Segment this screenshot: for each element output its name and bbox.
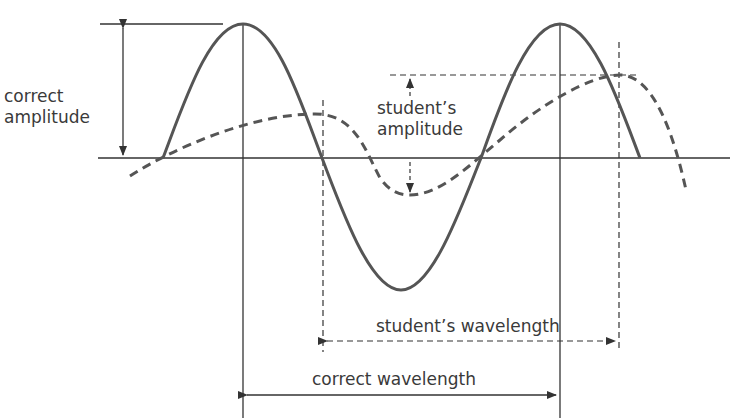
student-wavelength-label: student’s wavelength [376, 316, 560, 337]
correct-amplitude-label-line2: amplitude [4, 107, 90, 128]
student-amplitude-label-line2: amplitude [376, 119, 464, 140]
student-amplitude-label-line1: student’s [376, 98, 457, 119]
correct-wave [163, 24, 640, 290]
correct-amplitude-label-line1: correct [4, 86, 64, 107]
correct-wavelength-label: correct wavelength [312, 369, 476, 390]
wave-diagram [0, 0, 730, 418]
